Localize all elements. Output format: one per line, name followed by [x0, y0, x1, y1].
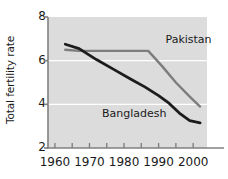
x-tick-label: 1990	[142, 155, 176, 169]
x-tick-label: 2000	[176, 155, 210, 169]
series-label-bangladesh: Bangladesh	[102, 107, 167, 120]
fertility-rate-line-chart: Total fertility rate 8 6 4 2 Pakistan Ba…	[0, 0, 228, 179]
x-tick-label: 1970	[72, 155, 106, 169]
x-tick-label: 1960	[38, 155, 72, 169]
x-tick-label: 1980	[107, 155, 141, 169]
chart-canvas	[0, 0, 228, 179]
series-label-pakistan: Pakistan	[166, 33, 212, 46]
